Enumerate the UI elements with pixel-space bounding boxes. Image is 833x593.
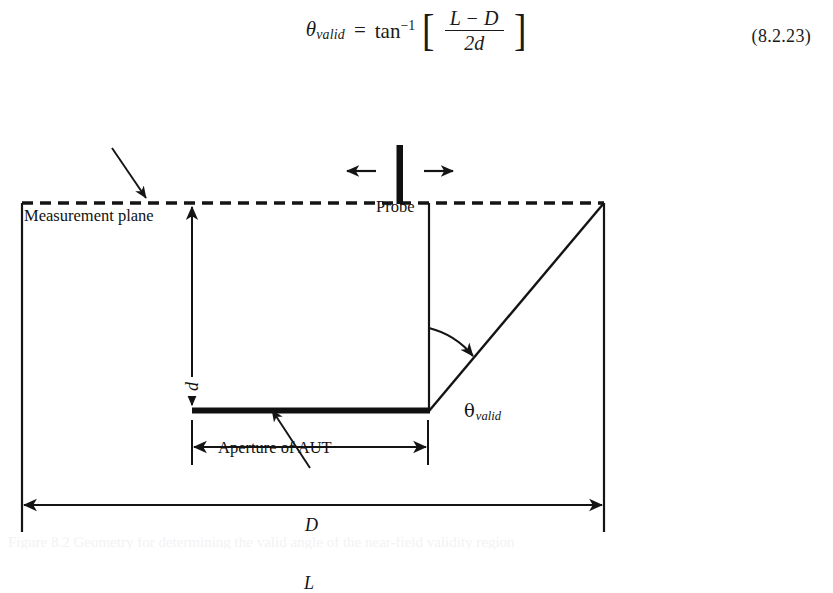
theta-valid-subscript: valid: [475, 409, 501, 423]
label-measurement-plane: Measurement plane: [24, 206, 154, 226]
figure-caption-text: Figure 8.2 Geometry for determining the …: [8, 537, 515, 549]
bracket-open: [: [422, 13, 434, 48]
equals-sign: =: [351, 20, 369, 41]
label-theta-valid: θvalid: [464, 400, 501, 424]
tan-exponent: −1: [400, 18, 415, 33]
figure-caption-strip: Figure 8.2 Geometry for determining the …: [0, 537, 833, 549]
tan-text: tan: [375, 19, 401, 43]
label-probe: Probe: [376, 197, 415, 217]
dimension-label-D-uppercase: D: [301, 515, 322, 536]
dimension-label-d: d: [182, 377, 203, 396]
probe-bar: [397, 145, 404, 204]
valid-angle-diagonal: [429, 203, 604, 411]
fraction-denominator: 2d: [445, 30, 504, 53]
fraction-numerator: L − D: [445, 8, 504, 30]
figure-svg: [0, 80, 833, 549]
measurement-plane-leader-line: [112, 148, 146, 198]
equation-expression: θvalid = tan−1 [ L − D 2d ]: [0, 8, 833, 53]
figure-diagram: Measurement plane Probe Aperture of AUT …: [0, 80, 833, 549]
equation-lhs: θvalid: [306, 19, 345, 42]
label-aperture-of-aut: Aperture of AUT: [218, 438, 332, 458]
dimension-label-L: L: [300, 573, 318, 593]
equation-number: (8.2.23): [752, 26, 811, 47]
theta-valid-arc: [429, 328, 473, 356]
theta-valid-symbol: θ: [464, 400, 475, 421]
arctan-operator: tan−1: [375, 19, 415, 42]
fraction: L − D 2d: [445, 8, 504, 53]
aperture-bar: [192, 408, 430, 414]
theta-symbol: θ: [306, 17, 316, 41]
bracket-close: ]: [514, 13, 526, 48]
theta-subscript: valid: [316, 27, 345, 42]
equation-block: θvalid = tan−1 [ L − D 2d ] (8.2.23): [0, 0, 833, 80]
